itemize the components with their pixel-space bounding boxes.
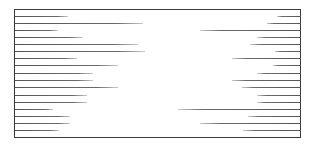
right-line-row-3 (200, 30, 301, 31)
right-line-row-11 (242, 87, 301, 88)
left-line-row-15 (15, 116, 70, 117)
left-line-row-5 (15, 44, 138, 45)
left-line-row-4 (15, 37, 83, 38)
left-line-row-17 (15, 130, 59, 131)
left-line-row-10 (15, 80, 93, 81)
right-line-row-16 (200, 123, 301, 124)
right-line-row-13 (257, 102, 301, 103)
figure-canvas (0, 0, 315, 147)
right-line-row-12 (257, 95, 301, 96)
left-line-row-14 (15, 109, 53, 110)
left-line-row-12 (15, 95, 87, 96)
right-line-row-8 (273, 65, 301, 66)
left-line-row-1 (15, 16, 68, 17)
right-line-row-9 (257, 73, 301, 74)
right-line-row-1 (277, 16, 301, 17)
right-line-row-10 (232, 80, 301, 81)
right-line-row-14 (178, 109, 301, 110)
left-line-row-2 (15, 23, 143, 24)
left-line-row-7 (15, 58, 77, 59)
left-line-row-11 (15, 87, 118, 88)
right-line-row-5 (250, 44, 301, 45)
right-line-row-6 (275, 51, 301, 52)
left-line-row-13 (15, 102, 87, 103)
left-line-row-6 (15, 51, 145, 52)
left-line-row-3 (15, 30, 58, 31)
right-line-row-4 (257, 37, 301, 38)
right-line-row-2 (267, 23, 301, 24)
left-line-row-16 (15, 123, 70, 124)
left-line-row-8 (15, 65, 118, 66)
right-line-row-15 (248, 116, 301, 117)
right-line-row-7 (232, 58, 301, 59)
left-line-row-9 (15, 73, 93, 74)
right-line-row-17 (243, 130, 301, 131)
